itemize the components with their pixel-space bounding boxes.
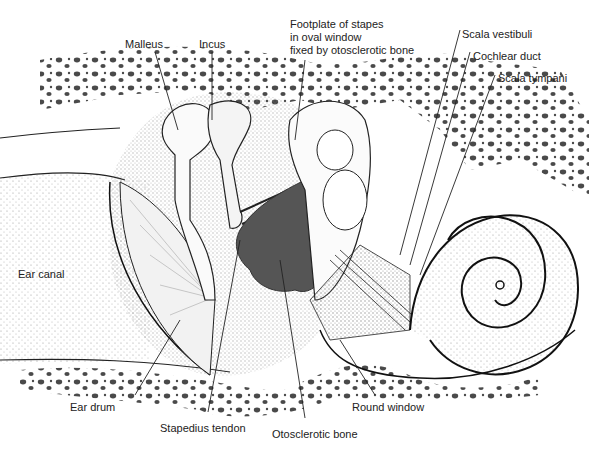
anatomy-illustration	[0, 0, 589, 451]
label-cochlear-duct: Cochlear duct	[473, 50, 541, 63]
ear-diagram: Malleus Incus Footplate of stapes in ova…	[0, 0, 589, 451]
label-otosclerotic-bone: Otosclerotic bone	[272, 428, 358, 441]
label-scala-tympani: Scala tympani	[498, 72, 567, 85]
label-round-window: Round window	[352, 401, 424, 414]
label-incus: Incus	[199, 38, 225, 51]
label-stapedius-tendon: Stapedius tendon	[160, 422, 246, 435]
label-footplate-of-stapes: Footplate of stapes in oval window fixed…	[290, 18, 414, 57]
cochlea-spiral	[410, 215, 578, 374]
label-scala-vestibuli: Scala vestibuli	[462, 28, 532, 41]
label-ear-canal: Ear canal	[18, 268, 64, 281]
label-malleus: Malleus	[125, 38, 163, 51]
label-ear-drum: Ear drum	[70, 401, 115, 414]
